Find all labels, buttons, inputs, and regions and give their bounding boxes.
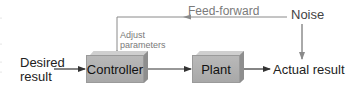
desired-result-line2: result <box>20 70 65 84</box>
adjust-parameters-line2: parameters <box>120 40 166 50</box>
plant-block: Plant <box>192 55 240 83</box>
controller-block: Controller <box>86 55 144 83</box>
plant-block-side-face <box>240 51 244 83</box>
control-diagram: Controller Plant Desired result Actual r… <box>0 0 354 92</box>
adjust-parameters-label: Adjust parameters <box>120 30 166 50</box>
desired-result-line1: Desired <box>20 56 65 70</box>
plant-label: Plant <box>201 62 231 77</box>
feedforward-label: Feed-forward <box>188 5 259 17</box>
noise-label: Noise <box>291 8 324 21</box>
controller-label: Controller <box>87 62 143 77</box>
adjust-parameters-line1: Adjust <box>120 30 166 40</box>
controller-block-side-face <box>144 51 148 83</box>
actual-result-label: Actual result <box>273 63 345 76</box>
desired-result-label: Desired result <box>20 56 65 84</box>
